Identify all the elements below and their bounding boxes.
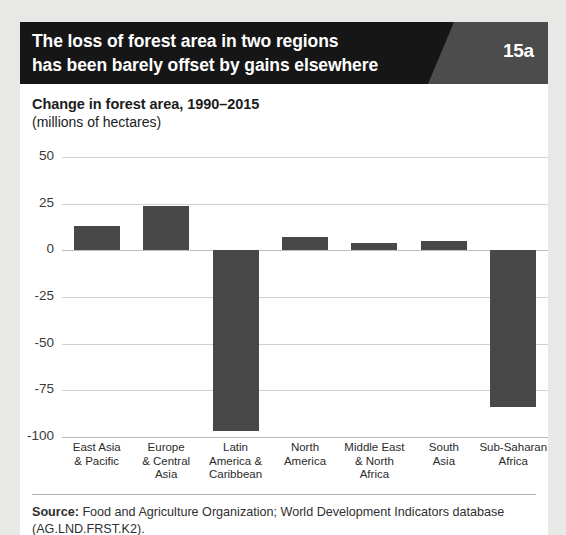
x-axis-label-line: Africa xyxy=(334,468,415,482)
source-label: Source: xyxy=(32,505,79,519)
bar xyxy=(351,243,397,250)
figure-title-banner: The loss of forest area in two regions h… xyxy=(20,22,548,84)
x-axis-label-line: Sub-Saharan xyxy=(473,441,554,455)
chart-plot: 50250-25-50-75-100 East Asia& PacificEur… xyxy=(20,135,548,475)
figure-card: The loss of forest area in two regions h… xyxy=(20,22,548,535)
chart-subtitle: (millions of hectares) xyxy=(32,113,548,131)
y-tick-label-0: 0 xyxy=(10,241,54,256)
source-text: Food and Agriculture Organization; World… xyxy=(32,505,504,535)
bar xyxy=(282,237,328,250)
bar xyxy=(143,206,189,251)
source-note: Source: Food and Agriculture Organizatio… xyxy=(32,504,540,535)
plot-area: 50250-25-50-75-100 xyxy=(62,157,548,437)
gridline--100 xyxy=(62,437,548,438)
x-axis-label-line: Caribbean xyxy=(195,468,276,482)
bar xyxy=(74,226,120,250)
y-tick-label-25: 25 xyxy=(10,195,54,210)
y-tick-label--50: -50 xyxy=(10,335,54,350)
x-axis-labels: East Asia& PacificEurope& CentralAsiaLat… xyxy=(62,441,548,487)
bar-series xyxy=(62,157,548,437)
bar xyxy=(421,241,467,250)
chart-header: Change in forest area, 1990–2015 (millio… xyxy=(20,84,548,131)
bar xyxy=(213,250,259,431)
y-tick-label--100: -100 xyxy=(10,428,54,443)
x-axis-label: Sub-SaharanAfrica xyxy=(473,441,554,468)
bar xyxy=(490,250,536,407)
y-tick-label--25: -25 xyxy=(10,288,54,303)
chart-title: Change in forest area, 1990–2015 xyxy=(32,95,548,113)
figure-title-line-2: has been barely offset by gains elsewher… xyxy=(32,53,452,77)
figure-title-line-1: The loss of forest area in two regions xyxy=(32,29,452,53)
y-tick-label--75: -75 xyxy=(10,381,54,396)
figure-number-label: 15a xyxy=(503,40,534,62)
y-tick-label-50: 50 xyxy=(10,148,54,163)
x-axis-label-line: Africa xyxy=(473,455,554,469)
figure-title: The loss of forest area in two regions h… xyxy=(32,29,452,77)
source-divider xyxy=(32,494,536,495)
